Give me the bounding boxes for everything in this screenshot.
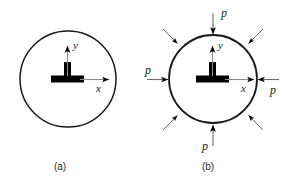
pressure-label-top: p [220,6,227,20]
x-axis-label-a: x [95,82,101,94]
origin-axes-b: y x [196,39,254,94]
pressure-label-right: p [269,83,276,97]
figure-canvas: y x (a) y x [0,0,289,186]
pressure-arrow-bottom-right-line [249,116,264,131]
y-axis-label-b: y [217,39,223,51]
pressure-label-left: p [144,63,151,77]
pressure-arrow-top-right-line [249,29,264,44]
pressure-arrow-bottom: p [201,125,213,153]
panel-b: y x p p p [144,6,279,172]
caption-a: (a) [54,161,66,172]
pressure-arrow-top-left-line [163,29,178,44]
origin-axes-a: y x [51,39,109,94]
pressure-arrow-left: p [144,63,168,80]
x-axis-label-b: x [240,82,246,94]
pressure-arrow-top-right [249,29,264,44]
figure-container: y x (a) y x [0,0,289,186]
pressure-label-bottom: p [201,139,208,153]
panel-a: y x (a) [20,31,116,172]
pressure-arrow-top-left [163,29,178,44]
caption-b: (b) [202,161,214,172]
pressure-arrow-bottom-left-line [163,116,178,131]
pressure-arrow-right: p [258,80,279,98]
pressure-arrow-top: p [213,6,227,34]
pressure-arrow-bottom-right [249,116,264,131]
pressure-arrow-bottom-left [163,116,178,131]
y-axis-label-a: y [72,39,78,51]
